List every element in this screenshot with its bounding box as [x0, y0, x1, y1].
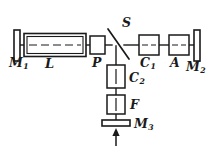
beamsplitter-glyph: [108, 29, 129, 59]
optical-setup-diagram: M1 L P S C1 A M2 C2 F M3: [0, 0, 207, 151]
label-polarizer: P: [92, 57, 102, 71]
beamsplitter-plate: [108, 29, 129, 59]
polarizer-glyph: [90, 36, 105, 54]
label-cell-1: C1: [140, 57, 156, 71]
cell-1-glyph: [139, 35, 159, 55]
filter-glyph: [107, 95, 125, 114]
mirror-3-bar: [102, 120, 130, 126]
diagram-canvas: [0, 0, 207, 151]
cell-2-glyph: [107, 65, 125, 88]
label-mirror-1: M1: [9, 57, 29, 71]
label-laser-tube: L: [45, 57, 55, 71]
mirror-2-glyph: [194, 30, 200, 61]
label-attenuator: A: [170, 57, 180, 71]
label-mirror-3: M3: [134, 118, 154, 132]
attenuator-glyph: [169, 35, 189, 55]
polarizer-box: [90, 36, 105, 54]
input-beam-arrow: [112, 128, 119, 146]
label-beamsplitter: S: [122, 17, 132, 31]
laser-tube-glyph: [24, 34, 86, 57]
label-cell-2: C2: [129, 72, 145, 86]
label-filter: F: [130, 99, 139, 113]
mirror-3-glyph: [102, 120, 130, 126]
input-beam-arrow-head: [112, 128, 119, 136]
mirror-2-bar: [194, 30, 200, 61]
label-mirror-2: M2: [186, 61, 206, 75]
